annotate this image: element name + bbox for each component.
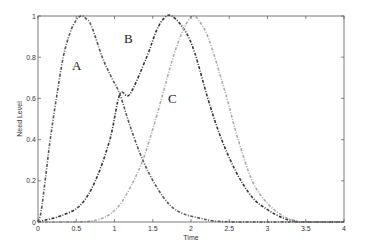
y-tick-label: 1 bbox=[32, 13, 36, 20]
x-tick-label: 0.5 bbox=[71, 225, 81, 232]
curve-c bbox=[38, 16, 344, 222]
curve-group bbox=[38, 15, 344, 222]
x-tick-label: 4 bbox=[342, 225, 346, 232]
x-tick-label: 3.5 bbox=[301, 225, 311, 232]
x-tick-label: 0 bbox=[36, 225, 40, 232]
x-tick-label: 3 bbox=[266, 225, 270, 232]
y-tick-label: 0.4 bbox=[26, 136, 36, 143]
plot-area-frame bbox=[38, 16, 344, 222]
x-tick-label: 1 bbox=[113, 225, 117, 232]
curve-label-c: C bbox=[168, 91, 177, 106]
x-tick-label: 1.5 bbox=[148, 225, 158, 232]
curve-label-a: A bbox=[72, 58, 82, 73]
curve-a bbox=[38, 16, 344, 222]
y-tick-label: 0 bbox=[32, 219, 36, 226]
y-tick-label: 0.2 bbox=[26, 177, 36, 184]
x-tick-label: 2.5 bbox=[224, 225, 234, 232]
x-axis-label: Time bbox=[183, 234, 198, 241]
curve-label-b: B bbox=[124, 31, 133, 46]
curve-b bbox=[38, 15, 344, 222]
y-tick-label: 0.8 bbox=[26, 54, 36, 61]
y-axis: 00.20.40.60.81 bbox=[26, 13, 344, 226]
y-axis-label: Need Level bbox=[16, 101, 23, 137]
y-tick-label: 0.6 bbox=[26, 95, 36, 102]
need-level-chart: 00.511.522.533.54 00.20.40.60.81 Time Ne… bbox=[0, 0, 365, 250]
x-tick-label: 2 bbox=[189, 225, 193, 232]
x-axis: 00.511.522.533.54 bbox=[36, 16, 346, 232]
